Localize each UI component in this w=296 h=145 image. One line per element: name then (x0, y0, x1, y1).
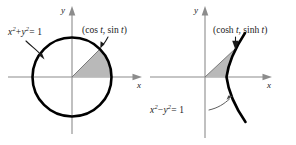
circle-point-leader-arrowhead (100, 41, 104, 48)
circle-point-prefix: (cos (82, 25, 100, 36)
y-axis-label: y (193, 5, 198, 15)
circle-point-middle: , sin (103, 25, 121, 35)
circular-sector-shading (72, 49, 112, 77)
x-axis-label: x (136, 80, 141, 90)
circle-point-leader (100, 37, 108, 49)
y-axis-arrowhead (202, 6, 209, 16)
circle-equation-label: x2+y2= 1 (7, 25, 42, 37)
circle-equation-leader-line (26, 41, 42, 56)
hyperbola-point-suffix: ) (264, 25, 267, 36)
hyperbola-point-leader (232, 37, 239, 50)
x-axis-label: x (266, 80, 271, 90)
unit-circle-panel: x2+y2= 1 (cos t, sin t) y x (0, 0, 148, 145)
hyperbola-equation-leader (209, 95, 233, 110)
circle-point-suffix: ) (124, 25, 127, 36)
hyperbola-point-prefix: (cosh (213, 25, 236, 36)
figure-container: x2+y2= 1 (cos t, sin t) y x (0, 0, 296, 145)
hyperbola-point-middle: , sinh (239, 25, 262, 35)
hyperbola-equation-leader-line (209, 99, 230, 110)
circle-eq-equals: = 1 (29, 27, 42, 37)
unit-hyperbola-panel: (cosh t, sinh t) x2−y2= 1 y x (148, 0, 296, 145)
hyperbola-eq-equals: = 1 (171, 105, 184, 115)
circle-point-label: (cos t, sin t) (82, 25, 127, 36)
y-axis (202, 6, 209, 138)
hyperbola-point-label: (cosh t, sinh t) (213, 25, 267, 36)
y-axis-label: y (60, 5, 65, 15)
y-axis-arrowhead (69, 6, 76, 16)
hyperbola-equation-label: x2−y2= 1 (149, 103, 184, 115)
y-axis (69, 6, 76, 134)
